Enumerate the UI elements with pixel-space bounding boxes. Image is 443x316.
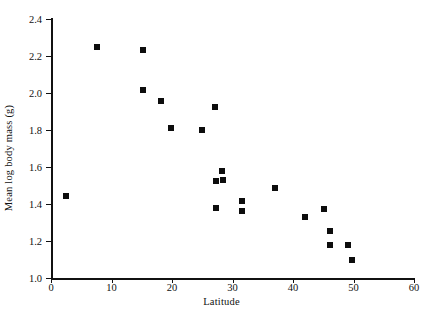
y-tick-label: 2.4 [2, 14, 42, 25]
data-point [94, 44, 100, 50]
data-point [321, 206, 327, 212]
x-tick-label: 0 [48, 282, 53, 293]
y-tick-mark [46, 19, 51, 20]
x-tick-label: 40 [288, 282, 299, 293]
data-point [220, 177, 226, 183]
data-point [327, 228, 333, 234]
scatter-chart: 0102030405060 1.01.21.41.61.82.02.22.4 L… [0, 0, 443, 316]
data-point [213, 205, 219, 211]
y-axis-title: Mean log body mass (g) [3, 105, 14, 211]
data-point [327, 242, 333, 248]
y-tick-mark [46, 167, 51, 168]
data-point [213, 178, 219, 184]
y-tick-label: 2.2 [2, 51, 42, 62]
x-tick-label: 20 [167, 282, 178, 293]
x-axis-title: Latitude [0, 296, 443, 307]
x-tick-label: 50 [348, 282, 359, 293]
x-tick-label: 30 [227, 282, 238, 293]
data-point [168, 125, 174, 131]
data-point [63, 193, 69, 199]
y-tick-mark [46, 93, 51, 94]
y-tick-mark [46, 241, 51, 242]
y-axis-line [51, 18, 53, 279]
data-point [302, 214, 308, 220]
data-point [158, 98, 164, 104]
y-tick-mark [46, 56, 51, 57]
data-point [212, 104, 218, 110]
data-point [239, 208, 245, 214]
y-tick-label: 2.0 [2, 88, 42, 99]
data-point [219, 168, 225, 174]
data-point [345, 242, 351, 248]
y-tick-label: 1.2 [2, 236, 42, 247]
plot-area [51, 19, 414, 278]
data-point [140, 47, 146, 53]
data-point [239, 198, 245, 204]
x-tick-label: 60 [409, 282, 420, 293]
y-tick-mark [46, 278, 51, 279]
data-point [140, 87, 146, 93]
data-point [272, 185, 278, 191]
y-tick-label: 1.0 [2, 273, 42, 284]
x-tick-label: 10 [106, 282, 117, 293]
data-point [349, 257, 355, 263]
data-point [199, 127, 205, 133]
y-tick-mark [46, 204, 51, 205]
y-tick-mark [46, 130, 51, 131]
